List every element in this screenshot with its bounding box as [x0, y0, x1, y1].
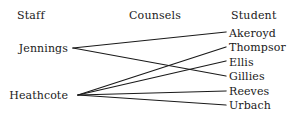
student-node-ellis: Ellis [229, 56, 254, 69]
column-header-student: Student [231, 9, 277, 22]
student-node-gillies: Gillies [229, 70, 265, 83]
column-header-staff: Staff [17, 9, 45, 22]
column-header-counsels: Counsels [129, 9, 181, 22]
staff-node-heathcote: Heathcote [0, 89, 68, 102]
edge-heathcote-thompson [78, 47, 226, 95]
edge-jennings-akeroyd [73, 32, 226, 48]
edge-heathcote-urbach [78, 95, 226, 105]
staff-node-jennings: Jennings [0, 42, 68, 55]
edge-heathcote-reeves [78, 91, 226, 95]
student-node-urbach: Urbach [229, 99, 271, 112]
edge-heathcote-ellis [78, 61, 226, 95]
student-node-thompson: Thompsor [229, 41, 286, 54]
student-node-reeves: Reeves [229, 85, 269, 98]
student-node-akeroyd: Akeroyd [229, 27, 276, 40]
relationship-diagram: Staff Counsels Student Jennings Heathcot… [0, 0, 292, 124]
